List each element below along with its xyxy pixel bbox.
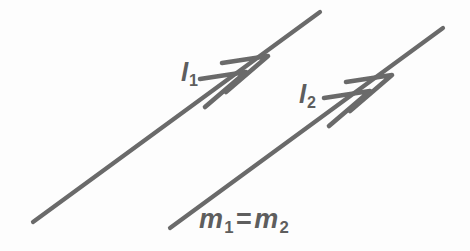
vector-label-l2: l2 xyxy=(299,81,316,107)
vector-label-l1-subscript: 1 xyxy=(188,71,198,89)
equation-right-symbol: m xyxy=(254,204,279,234)
vector-label-l1: l1 xyxy=(181,59,198,85)
equation-operator: = xyxy=(234,204,254,234)
equation-left-symbol: m xyxy=(199,204,224,234)
equation-right-subscript: 2 xyxy=(279,218,289,237)
vector-label-l2-subscript: 2 xyxy=(306,93,316,111)
slope-equation: m1=m2 xyxy=(199,206,289,233)
equation-left-subscript: 1 xyxy=(224,218,234,237)
vector-diagram: l1 l2 m1=m2 xyxy=(0,0,470,251)
